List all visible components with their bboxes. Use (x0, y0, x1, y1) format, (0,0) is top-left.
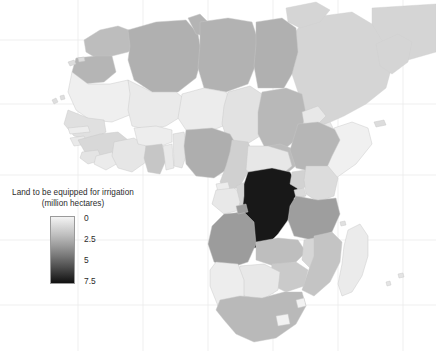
region-algeria (128, 20, 202, 92)
region-cape-verde-islands (52, 95, 65, 104)
legend-colorbar (50, 216, 75, 284)
legend-tick-0: 0 (84, 214, 89, 223)
region-angola (208, 212, 256, 268)
region-cabinda (236, 204, 248, 214)
legend-body: 0 2.5 5 7.5 (8, 216, 138, 288)
region-mauritius (398, 273, 404, 278)
map-figure: Land to be equipped for irrigation (mill… (0, 0, 436, 351)
legend-title-line2: (million hectares) (8, 199, 138, 210)
africa-choropleth-svg (0, 0, 436, 351)
legend: Land to be equipped for irrigation (mill… (8, 188, 138, 288)
region-reunion (386, 281, 391, 286)
region-libya (198, 18, 258, 92)
region-togo (163, 144, 174, 170)
region-lesotho (276, 314, 290, 326)
legend-title-line1: Land to be equipped for irrigation (8, 188, 138, 199)
region-socotra (374, 120, 386, 127)
region-zambia (256, 238, 306, 266)
region-ghana (144, 144, 166, 174)
region-eswatini (296, 298, 306, 308)
legend-tick-2: 5 (84, 256, 89, 265)
context-landmass-group (286, 2, 436, 126)
legend-tick-3: 7.5 (84, 277, 96, 286)
region-madagascar (338, 224, 368, 296)
legend-tick-1: 2.5 (84, 235, 96, 244)
region-south-africa (216, 292, 306, 342)
region-comoros (340, 221, 346, 226)
region-egypt (254, 18, 298, 88)
